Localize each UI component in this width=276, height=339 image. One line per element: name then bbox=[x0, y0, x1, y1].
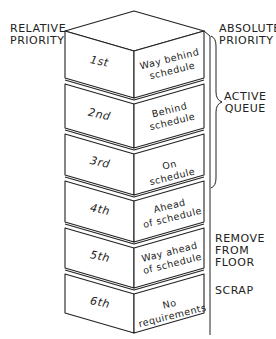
active-queue-brace bbox=[211, 36, 222, 188]
absolute-priority-bracket bbox=[204, 31, 210, 335]
